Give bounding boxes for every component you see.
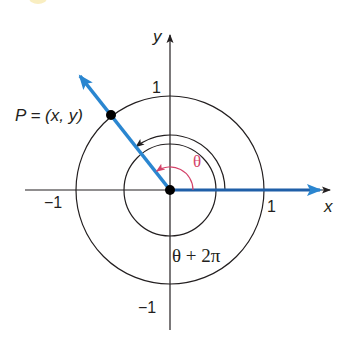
tick-label-x-pos: 1 bbox=[267, 198, 276, 215]
tick-label-y-pos: 1 bbox=[152, 79, 161, 96]
point-p-label: P = (x, y) bbox=[15, 106, 83, 125]
point-p bbox=[106, 110, 116, 120]
tick-label-x-neg: −1 bbox=[44, 194, 62, 211]
theta-label: θ bbox=[193, 152, 201, 171]
coterminal-angle-label: θ + 2π bbox=[172, 245, 221, 266]
unit-circle-diagram: y x 1 −1 1 −1 P = (x, y) θ θ + 2π bbox=[0, 0, 352, 340]
corner-decoration bbox=[29, 0, 47, 4]
y-axis-label: y bbox=[152, 27, 163, 46]
x-axis-label: x bbox=[323, 197, 333, 216]
origin-point bbox=[165, 185, 175, 195]
tick-label-y-neg: −1 bbox=[138, 299, 156, 316]
